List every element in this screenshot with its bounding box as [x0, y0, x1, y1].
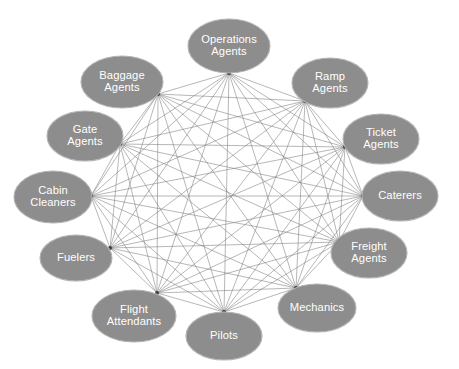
edge-mechanics--gate-agents	[120, 144, 296, 288]
edge-mechanics--flight-attendants	[157, 288, 296, 293]
edge-ramp-agents--mechanics	[296, 101, 305, 288]
node-label-pilots: Pilots	[210, 329, 238, 341]
node-caterers[interactable]: Caterers	[362, 171, 438, 221]
node-pilots[interactable]: Pilots	[186, 312, 262, 360]
edge-mechanics--fuelers	[110, 248, 296, 288]
network-graph-canvas: OperationsAgentsRampAgentsTicketAgentsCa…	[0, 0, 459, 369]
edge-operations-agents--baggage-agents	[158, 73, 229, 94]
node-label-fuelers: Fuelers	[57, 251, 95, 263]
node-label-line: Agents	[312, 82, 348, 94]
node-label-line: Flight	[120, 303, 149, 315]
node-label-line: Gate	[73, 123, 98, 135]
node-baggage-agents[interactable]: BaggageAgents	[81, 56, 163, 108]
edge-caterers--flight-attendants	[157, 196, 363, 293]
node-label-line: Agents	[211, 45, 247, 57]
node-label-ramp-agents: RampAgents	[312, 70, 348, 95]
node-label-line: Freight	[351, 240, 387, 252]
node-fuelers[interactable]: Fuelers	[40, 235, 112, 281]
edge-ticket-agents--flight-attendants	[157, 147, 345, 293]
node-label-line: Cleaners	[30, 196, 76, 208]
node-label-line: Agents	[67, 135, 103, 147]
node-ramp-agents[interactable]: RampAgents	[292, 58, 368, 108]
node-label-line: Cabin	[38, 184, 68, 196]
node-label-line: Attendants	[107, 315, 162, 327]
node-label-line: Agents	[104, 81, 140, 93]
node-ticket-agents[interactable]: TicketAgents	[343, 114, 419, 164]
node-label-line: Agents	[351, 252, 387, 264]
node-label-line: Agents	[363, 138, 399, 150]
node-operations-agents[interactable]: OperationsAgents	[188, 19, 270, 73]
node-label-baggage-agents: BaggageAgents	[99, 69, 145, 94]
node-label-freight-agents: FreightAgents	[351, 240, 387, 265]
node-label-line: Operations	[201, 33, 257, 45]
node-label-line: Fuelers	[57, 251, 95, 263]
network-diagram: OperationsAgentsRampAgentsTicketAgentsCa…	[0, 0, 459, 369]
node-label-mechanics: Mechanics	[290, 301, 345, 313]
node-cabin-cleaners[interactable]: CabinCleaners	[14, 171, 92, 223]
edge-ramp-agents--baggage-agents	[158, 94, 305, 101]
edge-freight-agents--gate-agents	[120, 144, 339, 242]
edge-ticket-agents--gate-agents	[120, 144, 345, 147]
node-freight-agents[interactable]: FreightAgents	[331, 228, 407, 278]
edge-caterers--fuelers	[110, 196, 363, 248]
node-label-line: Ramp	[315, 70, 345, 82]
edge-caterers--gate-agents	[120, 144, 363, 196]
node-label-line: Mechanics	[290, 301, 345, 313]
edges-layer	[91, 73, 363, 312]
edge-ticket-agents--cabin-cleaners	[91, 147, 345, 196]
edge-flight-attendants--gate-agents	[120, 144, 157, 293]
node-label-line: Pilots	[210, 329, 238, 341]
node-gate-agents[interactable]: GateAgents	[47, 111, 123, 161]
node-label-ticket-agents: TicketAgents	[363, 126, 399, 151]
node-flight-attendants[interactable]: FlightAttendants	[92, 290, 176, 342]
node-label-caterers: Caterers	[378, 189, 422, 201]
node-label-line: Baggage	[99, 69, 145, 81]
edge-flight-attendants--baggage-agents	[157, 94, 158, 293]
node-label-line: Ticket	[366, 126, 397, 138]
node-label-line: Caterers	[378, 189, 422, 201]
node-mechanics[interactable]: Mechanics	[278, 284, 356, 332]
